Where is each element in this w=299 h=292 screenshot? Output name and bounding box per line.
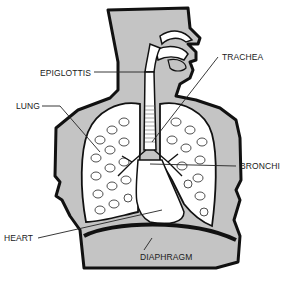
anatomy-illustration: [0, 0, 299, 292]
label-epiglottis: EPIGLOTTIS: [40, 68, 91, 78]
label-diaphragm: DIAPHRAGM: [140, 252, 192, 262]
label-lung: LUNG: [16, 101, 40, 111]
label-bronchi: BRONCHI: [240, 161, 280, 171]
label-heart: HEART: [4, 233, 33, 243]
label-trachea: TRACHEA: [222, 52, 263, 62]
respiratory-diagram: EPIGLOTTIS TRACHEA LUNG BRONCHI HEART DI…: [0, 0, 299, 292]
